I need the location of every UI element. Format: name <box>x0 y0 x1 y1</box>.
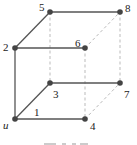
edge-6-8 <box>85 12 120 48</box>
node-8 <box>117 9 123 15</box>
node-6 <box>82 45 88 51</box>
node-5 <box>47 9 53 15</box>
node-label-7: 7 <box>124 88 130 100</box>
node-label-u: u <box>3 119 9 131</box>
node-label-5: 5 <box>39 1 45 13</box>
node-label-8: 8 <box>125 2 131 14</box>
edge-label-u-4: 1 <box>34 106 40 118</box>
caption-clipped <box>44 143 88 145</box>
node-label-3: 3 <box>53 88 59 100</box>
cube-graph: u 2 3 4 5 6 7 8 1 <box>0 0 137 145</box>
node-2 <box>12 45 18 51</box>
node-4 <box>82 116 88 122</box>
edge-4-7 <box>85 83 120 119</box>
edge-u-3 <box>15 83 50 119</box>
node-label-4: 4 <box>90 120 96 132</box>
node-3 <box>47 80 53 86</box>
node-u <box>12 116 18 122</box>
node-7 <box>117 80 123 86</box>
node-label-6: 6 <box>75 37 81 49</box>
node-label-2: 2 <box>3 41 9 53</box>
edge-2-5 <box>15 12 50 48</box>
